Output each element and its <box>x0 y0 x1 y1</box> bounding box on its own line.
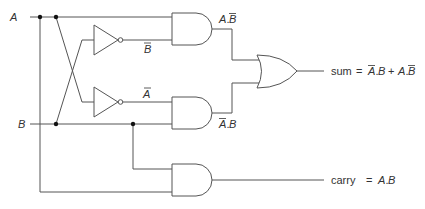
svg-text:B: B <box>229 13 236 25</box>
not-gate-2 <box>94 87 123 117</box>
or-gate-sum <box>257 55 297 88</box>
and-gate-2 <box>172 97 212 129</box>
svg-text:A: A <box>377 174 385 186</box>
junction-dot <box>54 122 58 126</box>
sum-expression: sum = A . B + A . B <box>331 65 415 77</box>
svg-text:A: A <box>142 88 150 100</box>
input-b-label: B <box>18 118 25 130</box>
carry-expression: carry = A . B <box>331 174 395 186</box>
svg-text:B: B <box>229 118 236 130</box>
svg-text:+: + <box>388 65 394 77</box>
svg-text:sum: sum <box>331 65 352 77</box>
wire-b-to-and3 <box>133 124 172 169</box>
half-adder-diagram: A B B A A . B <box>0 0 425 209</box>
svg-text:=: = <box>356 65 362 77</box>
svg-text:B: B <box>408 65 415 77</box>
svg-text:A: A <box>367 65 375 77</box>
wire-b-to-not1 <box>56 40 94 124</box>
junction-dot <box>38 15 42 19</box>
junction-dot <box>131 122 135 126</box>
junction-dot <box>54 15 58 19</box>
label-b-bar: B <box>144 43 151 55</box>
svg-text:B: B <box>388 174 395 186</box>
label-and1-out: A . B <box>218 13 236 25</box>
svg-text:A: A <box>218 13 226 25</box>
label-a-bar: A <box>142 88 151 100</box>
svg-text:B: B <box>378 65 385 77</box>
svg-text:A: A <box>218 118 226 130</box>
and-gate-1 <box>172 13 212 45</box>
svg-text:B: B <box>144 43 151 55</box>
svg-text:A: A <box>397 65 405 77</box>
svg-text:=: = <box>366 174 372 186</box>
and-gate-3-carry <box>172 164 212 196</box>
wire-and2-to-or <box>212 83 260 113</box>
svg-text:carry: carry <box>331 174 356 186</box>
not-gate-1 <box>94 25 123 55</box>
wire-and1-to-or <box>212 29 260 60</box>
input-a-label: A <box>9 11 17 23</box>
wire-a-to-not2 <box>56 17 94 102</box>
label-and2-out: A . B <box>218 118 236 130</box>
